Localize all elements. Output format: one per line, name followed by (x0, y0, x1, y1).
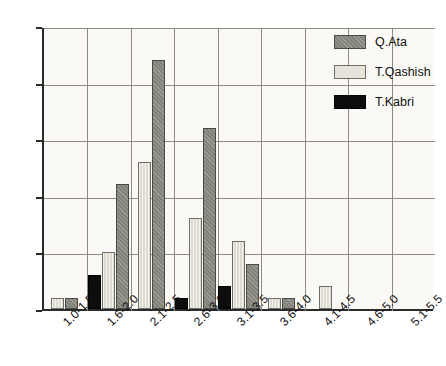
legend-swatch-qashish (334, 65, 366, 79)
gridline-vertical (261, 28, 262, 311)
legend-label: T.Kabri (375, 96, 414, 109)
gridline-vertical (87, 28, 88, 311)
y-tick-mark (36, 140, 42, 142)
gridline-vertical (174, 28, 175, 311)
legend-item-qata: Q.Ata (334, 30, 434, 54)
gridline-vertical (305, 28, 306, 311)
legend-label: Q.Ata (375, 36, 407, 49)
bar-t-qashish-1.6-2.0 (102, 252, 115, 309)
y-tick-mark (36, 84, 42, 86)
bar-t-qashish-2.1-2.5 (138, 162, 151, 309)
legend-label: T.Qashish (375, 66, 431, 79)
bar-t-qashish-3.1-3.5 (232, 241, 245, 309)
gridline-horizontal (44, 198, 435, 199)
bar-t-qashish-1.0-1.5 (51, 298, 64, 309)
gridline-horizontal (44, 141, 435, 142)
y-tick-mark (36, 197, 42, 199)
gridline-horizontal (44, 28, 435, 29)
bar-q-ata-2.6-3.0 (203, 128, 216, 309)
bar-q-ata-1.6-2.0 (116, 184, 129, 309)
bar-q-ata-2.1-2.5 (152, 60, 165, 309)
legend-swatch-kabri (334, 95, 366, 109)
y-tick-mark (36, 27, 42, 29)
gridline-vertical (218, 28, 219, 311)
bar-t-qashish-4.1-4.5 (319, 286, 332, 309)
legend-item-kabri: T.Kabri (334, 90, 434, 114)
bar-t-qashish-2.6-3.0 (189, 218, 202, 309)
bar-chart: 0510152025 1.0-1.51.6-2.02.1-2.52.6-3.03… (0, 0, 446, 366)
y-tick-mark (36, 253, 42, 255)
legend-swatch-qata (334, 35, 366, 49)
legend-item-qashish: T.Qashish (334, 60, 434, 84)
gridline-vertical (131, 28, 132, 311)
chart-legend: Q.AtaT.QashishT.Kabri (334, 30, 434, 120)
y-tick-mark (36, 310, 42, 312)
